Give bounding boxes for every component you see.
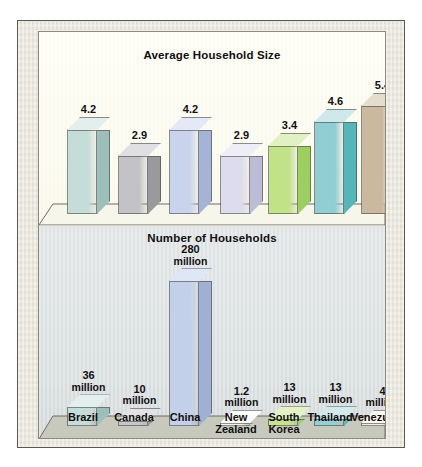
category-label-venezuela: Venezuela bbox=[351, 412, 385, 424]
bar-value-label-venezuela: 5.4 bbox=[375, 80, 385, 91]
bar-venezuela bbox=[361, 106, 385, 214]
bar-side-face bbox=[250, 156, 263, 214]
bar-side-face bbox=[199, 281, 212, 426]
bar-thailand bbox=[314, 122, 344, 214]
bar-value-label-venezuela: 4million bbox=[366, 386, 385, 408]
bar-front-face bbox=[268, 146, 298, 214]
bar-front-face bbox=[361, 106, 385, 214]
bar-value-label-china: 4.2 bbox=[183, 104, 198, 115]
category-label-canada: Canada bbox=[108, 412, 160, 424]
bar-value-label-thailand: 4.6 bbox=[328, 96, 343, 107]
bar-south-korea bbox=[268, 146, 298, 214]
bar-front-face bbox=[118, 156, 148, 214]
bar-side-face bbox=[148, 156, 161, 214]
category-label-new-zealand: New Zealand bbox=[210, 412, 262, 435]
bar-value-label-thailand: 13million bbox=[319, 382, 353, 404]
bar-front-face bbox=[67, 130, 97, 214]
bar-value-label-new-zealand: 2.9 bbox=[234, 130, 249, 141]
bar-value-label-south-korea: 13million bbox=[273, 382, 307, 404]
bar-new-zealand bbox=[220, 156, 250, 214]
bar-top-face bbox=[220, 143, 263, 156]
bar-top-face bbox=[67, 117, 110, 130]
bar-top-face bbox=[268, 133, 311, 146]
bar-front-face bbox=[314, 122, 344, 214]
category-label-china: China bbox=[159, 412, 211, 424]
bar-front-face bbox=[169, 130, 199, 214]
bar-value-label-new-zealand: 1.2million bbox=[225, 386, 259, 408]
bar-china bbox=[169, 281, 199, 426]
bar-value-label-china: 280million bbox=[174, 244, 208, 266]
bar-front-face bbox=[169, 281, 199, 426]
bar-side-face bbox=[298, 146, 311, 214]
chart-title-average-household-size: Average Household Size bbox=[39, 49, 385, 61]
bar-value-label-brazil: 36million bbox=[72, 370, 106, 392]
x-axis-category-labels: BrazilCanadaChinaNew ZealandSouth KoreaT… bbox=[39, 406, 385, 439]
bar-top-face bbox=[169, 268, 212, 281]
bars-layer-top: 4.22.94.22.93.44.65.4 bbox=[39, 32, 385, 226]
bar-top-face bbox=[118, 143, 161, 156]
bar-canada bbox=[118, 156, 148, 214]
bar-china bbox=[169, 130, 199, 214]
bar-side-face bbox=[344, 122, 357, 214]
bar-side-face bbox=[97, 130, 110, 214]
charts-container: Average Household Size 4.22.94.22.93.44.… bbox=[38, 31, 386, 439]
bar-side-face bbox=[199, 130, 212, 214]
figure-mat-border: Average Household Size 4.22.94.22.93.44.… bbox=[17, 20, 405, 448]
bar-front-face bbox=[220, 156, 250, 214]
bar-brazil bbox=[67, 130, 97, 214]
chart-title-number-of-households: Number of Households bbox=[39, 232, 385, 244]
category-label-brazil: Brazil bbox=[57, 412, 109, 424]
bar-value-label-canada: 2.9 bbox=[132, 130, 147, 141]
chart-average-household-size: Average Household Size 4.22.94.22.93.44.… bbox=[39, 32, 385, 226]
figure-root: Average Household Size 4.22.94.22.93.44.… bbox=[0, 0, 422, 467]
bar-top-face bbox=[361, 93, 385, 106]
bar-value-label-canada: 10million bbox=[123, 384, 157, 406]
category-label-south-korea: South Korea bbox=[258, 412, 310, 435]
bar-value-label-south-korea: 3.4 bbox=[282, 120, 297, 131]
bar-top-face bbox=[314, 109, 357, 122]
chart-number-of-households: Number of Households 36million10million2… bbox=[39, 226, 385, 439]
bar-value-label-brazil: 4.2 bbox=[81, 104, 96, 115]
bar-top-face bbox=[169, 117, 212, 130]
category-label-thailand: Thailand bbox=[304, 412, 356, 424]
